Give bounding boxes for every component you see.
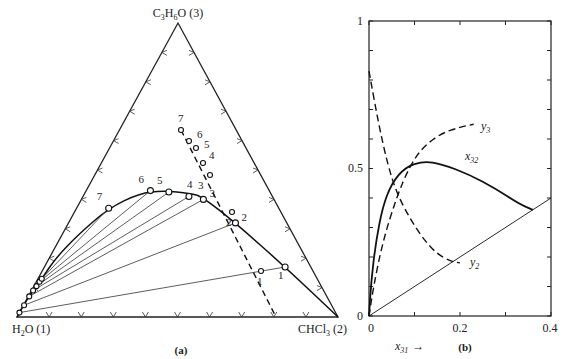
- distribution-chart: [369, 21, 551, 316]
- tie-line: [36, 192, 168, 286]
- conjugate-point-label: 4: [209, 149, 215, 161]
- x-tick-label-0: 0: [368, 321, 374, 335]
- conjugate-point: [208, 173, 213, 178]
- tie-line-label: 6: [138, 173, 144, 185]
- y-tick-label-0.5: 0.5: [348, 161, 363, 175]
- x-axis-label: x31→: [394, 339, 424, 355]
- conjugate-point: [194, 146, 199, 151]
- tie-line: [42, 208, 109, 279]
- extract-point: [31, 288, 36, 293]
- tie-line-label: 7: [97, 190, 103, 202]
- conjugate-point-label: 6: [197, 128, 203, 140]
- series-diagonal: [369, 198, 551, 316]
- conjugate-point: [187, 139, 192, 144]
- tick-mark: [175, 312, 181, 317]
- tie-line-label: 4: [187, 178, 193, 190]
- conjugate-point: [201, 161, 206, 166]
- tie-line: [19, 267, 285, 313]
- series-x32: [369, 162, 533, 316]
- plot-frame: [369, 21, 551, 316]
- tie-line-label: 3: [209, 187, 215, 199]
- raffinate-point: [186, 193, 192, 199]
- series-y2: [369, 71, 460, 263]
- raffinate-point: [106, 205, 112, 211]
- figure: 12345671234567 C3H6O(3) H2O(1) CHCl3(2) …: [0, 0, 563, 359]
- conjugate-point-label: 5: [204, 138, 210, 150]
- tick-mark: [78, 312, 84, 317]
- vertex-label-acetone: C3H6O(3): [153, 6, 203, 22]
- ternary-diagram: 12345671234567: [17, 23, 338, 317]
- curve-label-y3: y3: [480, 119, 490, 135]
- conjugate-point: [179, 128, 184, 133]
- x-tick-label-0.2: 0.2: [453, 321, 468, 335]
- tick-mark: [207, 312, 213, 317]
- tie-line-label: 1: [278, 269, 284, 281]
- curve-label-x32: x32: [464, 149, 478, 165]
- y-tick-label-0: 0: [357, 309, 363, 323]
- tick-mark: [110, 312, 116, 317]
- extract-point: [39, 276, 44, 281]
- curve-label-y2: y2: [469, 255, 479, 271]
- vertex-label-chloroform: CHCl3(2): [298, 322, 347, 338]
- extract-point: [27, 294, 32, 299]
- caption-b: (b): [458, 341, 472, 354]
- extract-point: [22, 303, 27, 308]
- caption-a: (a): [175, 344, 188, 357]
- raffinate-point: [166, 189, 172, 195]
- extract-point: [17, 310, 22, 315]
- tick-mark: [142, 312, 148, 317]
- tie-line: [40, 191, 151, 282]
- conjugate-point-label: 3: [198, 179, 204, 191]
- raffinate-point: [147, 188, 153, 194]
- tick-mark: [303, 312, 309, 317]
- tick-mark: [46, 312, 52, 317]
- conjugate-point-label: 7: [178, 112, 184, 124]
- tie-line-label: 5: [157, 174, 163, 186]
- tie-line-label: 2: [241, 211, 247, 223]
- raffinate-point: [200, 196, 206, 202]
- conjugate-point-label: 2: [226, 216, 232, 228]
- triangle-outline: [17, 23, 338, 317]
- vertex-label-water: H2O(1): [12, 322, 50, 338]
- conjugate-point: [259, 269, 264, 274]
- x-tick-label-0.4: 0.4: [543, 321, 558, 335]
- tick-mark: [239, 312, 245, 317]
- raffinate-point: [232, 220, 238, 226]
- conjugate-point: [230, 210, 235, 215]
- y-tick-label-1: 1: [357, 14, 363, 28]
- conjugate-point-label: 1: [257, 275, 263, 287]
